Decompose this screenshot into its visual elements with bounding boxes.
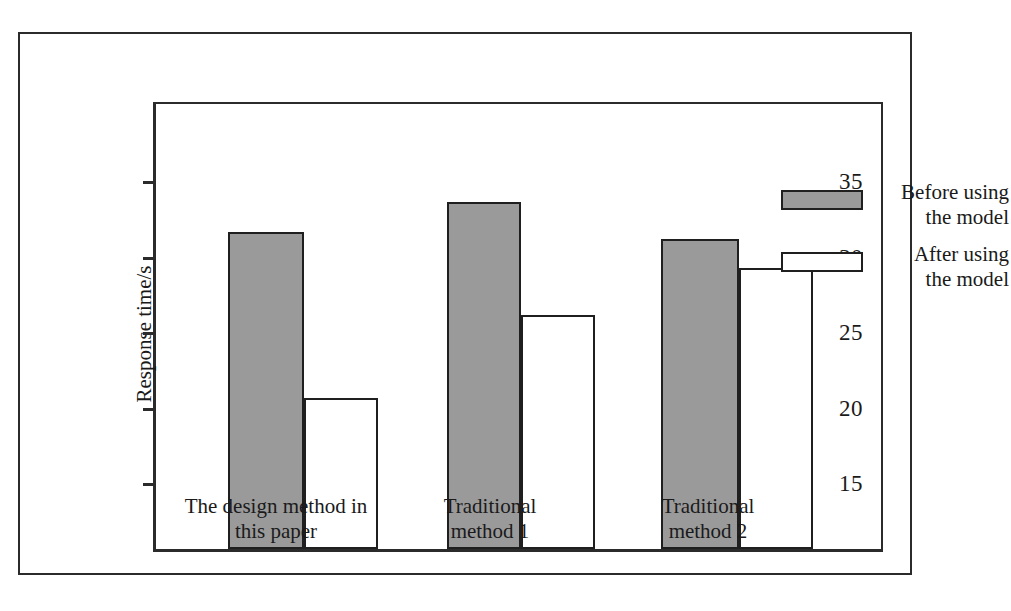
x-axis-label-group-3: Traditional method 2 [594, 494, 822, 544]
y-tick-15 [143, 483, 156, 486]
y-axis-title: Response time/s [148, 4, 169, 224]
legend-entry-after[interactable]: After using the model [781, 248, 1011, 310]
plot-frame: Response time/s 35 30 25 20 15 [153, 102, 883, 552]
y-tick-label-15: 15 [839, 472, 863, 495]
legend-label-before: Before using the model [873, 180, 1009, 230]
legend-entry-before[interactable]: Before using the model [781, 186, 1011, 248]
y-tick-20 [143, 408, 156, 411]
x-axis-label-group-2: Traditional method 1 [376, 494, 604, 544]
legend: Before using the model After using the m… [781, 186, 1011, 310]
y-tick-label-20: 20 [839, 397, 863, 420]
y-tick-label-25: 25 [839, 321, 863, 344]
legend-swatch-after-icon [781, 252, 863, 272]
y-tick-35 [143, 181, 156, 184]
y-tick-25 [143, 332, 156, 335]
legend-label-after: After using the model [873, 242, 1009, 292]
x-axis-label-group-1: The design method in this paper [146, 494, 406, 544]
legend-swatch-before-icon [781, 190, 863, 210]
figure-outer-border: Response time/s 35 30 25 20 15 [18, 32, 912, 575]
y-tick-30 [143, 257, 156, 260]
